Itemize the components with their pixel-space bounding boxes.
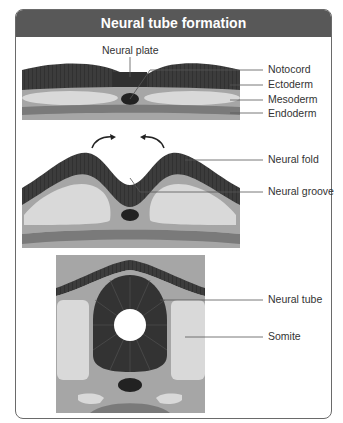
- label-endoderm: Endoderm: [268, 107, 316, 119]
- label-neural-tube: Neural tube: [268, 293, 322, 305]
- label-somite: Somite: [268, 330, 301, 342]
- label-neural-plate: Neural plate: [102, 44, 159, 56]
- label-notocord: Notocord: [268, 63, 311, 75]
- label-neural-fold: Neural fold: [268, 153, 319, 165]
- stage-neural-tube: [56, 255, 205, 413]
- label-neural-groove: Neural groove: [268, 185, 334, 197]
- label-mesoderm: Mesoderm: [268, 93, 318, 105]
- label-ectoderm: Ectoderm: [268, 78, 313, 90]
- stage-neural-fold: [22, 140, 240, 248]
- stage-neural-plate: [22, 58, 240, 120]
